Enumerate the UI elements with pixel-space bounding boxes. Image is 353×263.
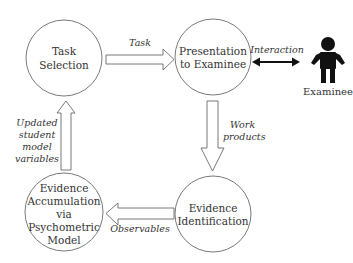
edge-task-label: Task (129, 37, 151, 48)
edge-task: Task (106, 37, 174, 70)
task-selection-circle (26, 20, 102, 96)
assessment-cycle-diagram: Task Selection Presentation to Examinee … (0, 0, 353, 263)
up-arrow-icon (57, 101, 75, 170)
evidence-accumulation-label-line-4: Psychometric (28, 221, 100, 233)
node-evidence-identification: Evidence Identification (175, 176, 251, 252)
edge-work-products-label-line-1: Work (230, 119, 255, 130)
node-presentation: Presentation to Examinee (175, 19, 251, 95)
edge-interaction-label: Interaction (249, 44, 304, 55)
presentation-circle (175, 19, 251, 95)
edge-work-products-label-line-2: products (223, 131, 266, 142)
edge-updated-variables-label-line-2: student (19, 129, 56, 140)
edge-work-products: Work products (201, 101, 266, 171)
edge-interaction: Interaction (249, 44, 304, 67)
edge-observables: Observables (106, 203, 174, 234)
node-task-selection: Task Selection (26, 20, 102, 96)
evidence-accumulation-label-line-5: Model (47, 234, 81, 246)
edge-updated-variables: Updated student model variables (15, 101, 75, 170)
task-selection-label-line-1: Task (52, 45, 77, 57)
presentation-label-line-1: Presentation (179, 45, 247, 57)
presentation-label-line-2: to Examinee (180, 58, 246, 70)
edge-updated-variables-label-line-4: variables (15, 153, 59, 164)
edge-updated-variables-label-line-3: model (22, 141, 51, 152)
left-arrow-icon (106, 203, 174, 225)
evidence-identification-circle (175, 176, 251, 252)
node-evidence-accumulation: Evidence Accumulation via Psychometric M… (25, 173, 103, 251)
double-arrow-icon (252, 58, 300, 67)
edge-observables-label: Observables (110, 223, 170, 234)
down-arrow-icon (201, 101, 224, 171)
examinee-label: Examinee (303, 86, 353, 97)
evidence-accumulation-label-line-1: Evidence (40, 182, 89, 194)
evidence-identification-label-line-2: Identification (177, 215, 248, 227)
evidence-accumulation-label-line-2: Accumulation (26, 195, 100, 207)
person-icon (311, 37, 345, 83)
edge-updated-variables-label-line-1: Updated (16, 117, 57, 128)
right-arrow-icon (106, 49, 174, 70)
task-selection-label-line-2: Selection (39, 59, 89, 71)
evidence-accumulation-label-line-3: via (55, 208, 72, 220)
evidence-identification-label-line-1: Evidence (189, 202, 238, 214)
examinee-actor: Examinee (303, 37, 353, 97)
